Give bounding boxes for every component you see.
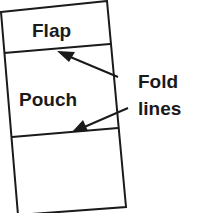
fold-line-top [4, 44, 110, 53]
flap-label: Flap [32, 20, 71, 41]
fold-lines-label-line1: Fold [138, 71, 178, 92]
pouch-label: Pouch [19, 89, 77, 110]
fold-lines-label-line2: lines [138, 98, 181, 119]
fold-line-bottom [12, 128, 118, 137]
arrow-icon [57, 51, 118, 77]
envelope-diagram: Flap Pouch Fold lines [0, 0, 197, 213]
